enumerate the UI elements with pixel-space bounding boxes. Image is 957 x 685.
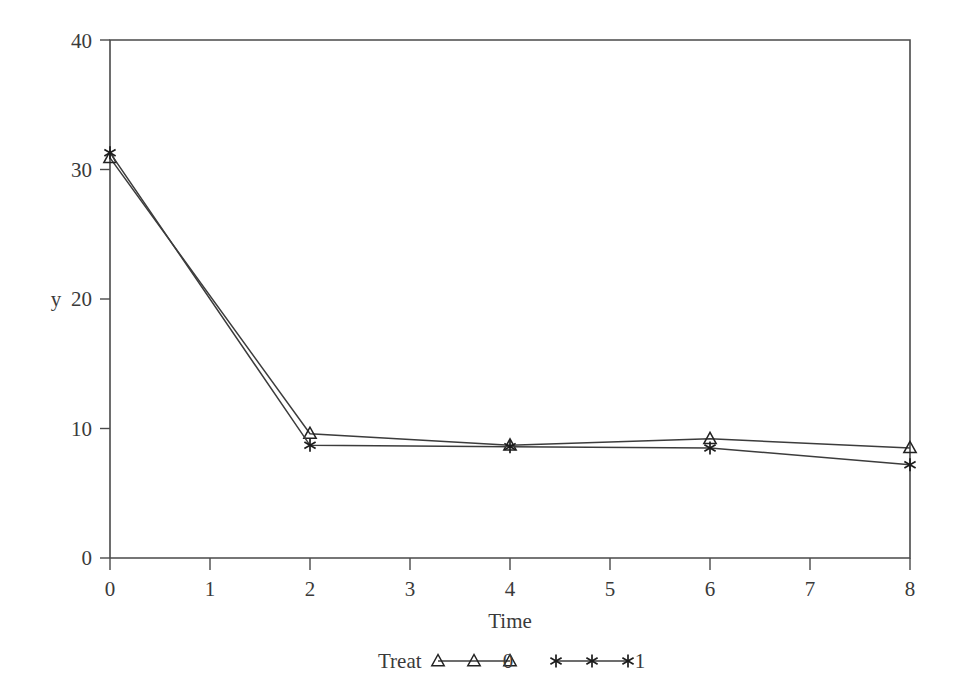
x-tick-label-2: 2: [305, 577, 316, 601]
legend: Treat 0 1: [378, 649, 645, 673]
legend-title: Treat: [378, 649, 422, 673]
y-axis-title: y: [51, 287, 62, 311]
x-tick-label-5: 5: [605, 577, 616, 601]
y-tick-label-40: 40: [71, 29, 92, 53]
x-axis-title: Time: [488, 609, 532, 633]
y-tick-label-30: 30: [71, 158, 92, 182]
legend-label-treat-1: 1: [635, 649, 646, 673]
x-tick-label-0: 0: [105, 577, 116, 601]
series-layer: [104, 146, 916, 471]
y-tick-labels: 0 10 20 30 40: [71, 29, 92, 570]
x-tick-label-1: 1: [205, 577, 216, 601]
x-tick-label-4: 4: [505, 577, 516, 601]
x-tick-label-8: 8: [905, 577, 916, 601]
y-tick-label-20: 20: [71, 287, 92, 311]
series-line-treat-0: [110, 158, 910, 448]
legend-label-treat-0: 0: [503, 649, 514, 673]
series-treat-1: [104, 146, 915, 471]
series-treat-0: [104, 151, 916, 452]
y-tick-label-0: 0: [82, 546, 93, 570]
x-tick-label-7: 7: [805, 577, 816, 601]
series-line-treat-1: [110, 153, 910, 465]
line-chart-canvas: 0 10 20 30 40 y 0 1 2 3 4 5 6: [0, 0, 957, 685]
y-tick-label-10: 10: [71, 417, 92, 441]
chart-figure: 0 10 20 30 40 y 0 1 2 3 4 5 6: [0, 0, 957, 685]
legend-marker-triangle-1: [468, 655, 480, 666]
legend-marker-triangle-0: [432, 655, 444, 666]
x-axis-ticks: [110, 558, 910, 570]
x-tick-labels: 0 1 2 3 4 5 6 7 8: [105, 577, 916, 601]
y-axis-ticks: [100, 40, 110, 558]
x-tick-label-6: 6: [705, 577, 716, 601]
plot-frame: [110, 40, 910, 558]
x-tick-label-3: 3: [405, 577, 416, 601]
legend-swatch-treat-1: [550, 655, 633, 668]
